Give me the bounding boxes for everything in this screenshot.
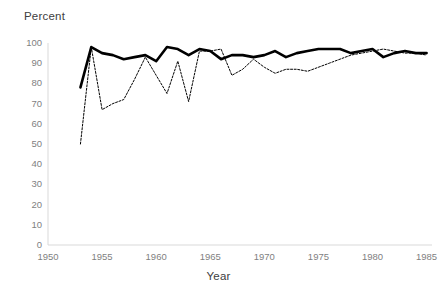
x-tick-label: 1975 bbox=[298, 252, 338, 262]
x-axis-title: Year bbox=[0, 270, 437, 282]
x-tick-label: 1950 bbox=[28, 252, 68, 262]
y-tick-label: 90 bbox=[16, 58, 42, 68]
y-tick-label: 60 bbox=[16, 119, 42, 129]
x-tick-label: 1965 bbox=[190, 252, 230, 262]
y-tick-label: 70 bbox=[16, 99, 42, 109]
x-tick-label: 1980 bbox=[353, 252, 393, 262]
x-tick-label: 1970 bbox=[244, 252, 284, 262]
series-line-dotted-series bbox=[80, 47, 426, 144]
y-tick-label: 50 bbox=[16, 139, 42, 149]
y-tick-label: 40 bbox=[16, 159, 42, 169]
series-layer bbox=[80, 47, 426, 144]
y-tick-label: 80 bbox=[16, 78, 42, 88]
y-tick-label: 10 bbox=[16, 220, 42, 230]
x-tick-label: 1985 bbox=[407, 252, 442, 262]
y-tick-label: 0 bbox=[16, 240, 42, 250]
y-tick-label: 30 bbox=[16, 179, 42, 189]
axis-lines bbox=[48, 43, 432, 245]
y-tick-label: 100 bbox=[16, 38, 42, 48]
series-line-solid-series bbox=[80, 47, 426, 87]
y-tick-label: 20 bbox=[16, 200, 42, 210]
x-tick-label: 1960 bbox=[136, 252, 176, 262]
x-tick-label: 1955 bbox=[82, 252, 122, 262]
